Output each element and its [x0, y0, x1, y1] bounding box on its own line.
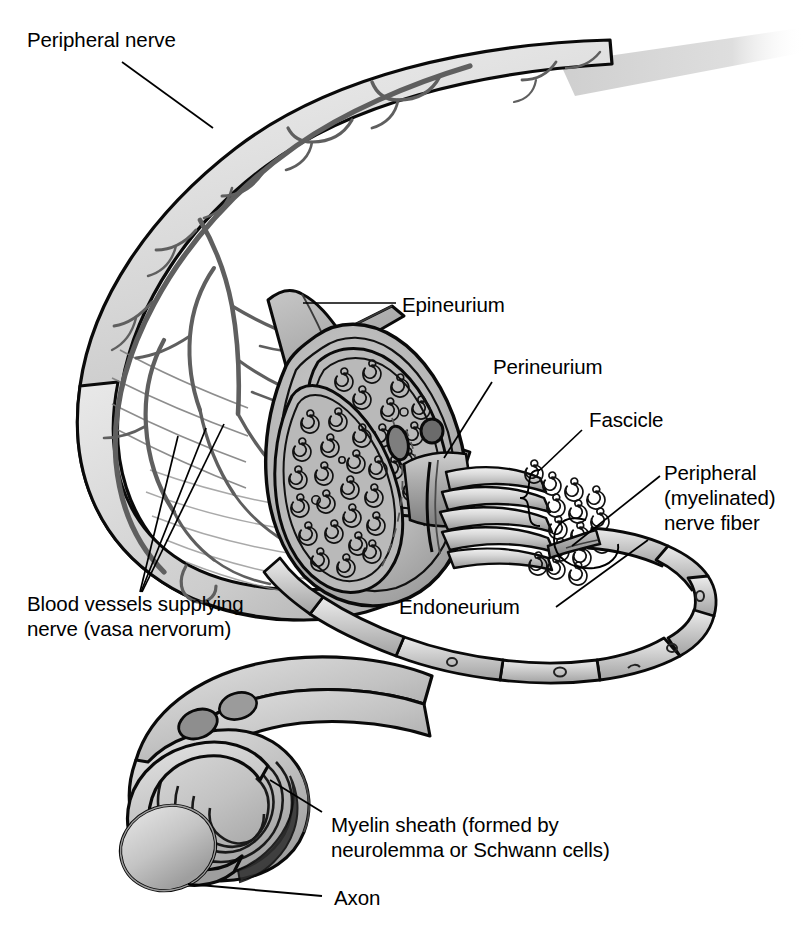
peripheral-nerve-figure: Peripheral nerve Epineurium Perineurium … [0, 0, 810, 928]
leader-peripheral-nerve [122, 62, 213, 128]
label-axon: Axon [334, 885, 380, 910]
label-peripheral-nerve: Peripheral nerve [27, 27, 176, 52]
bundle-fibers [440, 460, 611, 585]
label-myelin-sheath: Myelin sheath (formed by neurolemma or S… [331, 812, 610, 862]
label-blood-vessels: Blood vessels supplying nerve (vasa nerv… [27, 591, 244, 641]
leader-fascicle [540, 430, 582, 470]
label-endoneurium: Endoneurium [399, 594, 520, 619]
label-perineurium: Perineurium [493, 354, 602, 379]
label-peripheral-nerve-fiber: Peripheral (myelinated) nerve fiber [664, 460, 776, 535]
label-epineurium: Epineurium [402, 292, 505, 317]
leader-axon [188, 884, 322, 896]
label-fascicle: Fascicle [589, 407, 663, 432]
